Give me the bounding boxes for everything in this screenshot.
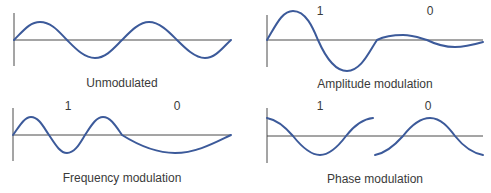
frequency-bit-0-label: 0 — [174, 99, 181, 113]
phase-bit-0-label: 0 — [425, 99, 432, 113]
frequency-modulation-caption: Frequency modulation — [63, 171, 182, 185]
panel-frequency-modulation — [13, 108, 231, 161]
phase-bit-1-label: 1 — [317, 99, 324, 113]
panel-amplitude-modulation — [267, 11, 483, 71]
modulation-diagram — [0, 0, 491, 193]
amplitude-modulation-caption: Amplitude modulation — [317, 77, 432, 91]
amplitude-bit-1-label: 1 — [317, 4, 324, 18]
panel-unmodulated — [14, 13, 231, 66]
am-wave — [267, 11, 483, 71]
panel-phase-modulation — [267, 108, 483, 163]
phase-modulation-caption: Phase modulation — [327, 172, 423, 186]
frequency-bit-1-label: 1 — [65, 99, 72, 113]
unmodulated-caption: Unmodulated — [86, 76, 157, 90]
amplitude-bit-0-label: 0 — [427, 4, 434, 18]
